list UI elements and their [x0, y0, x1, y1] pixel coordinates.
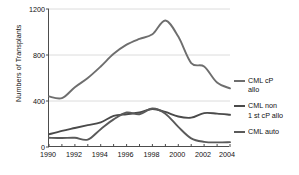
- x-axis-ticks: [49, 144, 230, 147]
- x-tick-2002: 2002: [195, 150, 211, 159]
- x-tick-1990: 1990: [40, 150, 56, 159]
- x-axis-tick-labels: 1990 1992 1994 1996 1998 2000 2002 2004: [48, 150, 229, 164]
- x-tick-2000: 2000: [169, 150, 185, 159]
- plot-svg: [49, 9, 230, 147]
- legend-label-cml-non-1st-cp-allo: CML non 1 st cP allo: [248, 101, 283, 119]
- y-tick-400: 400: [33, 97, 45, 106]
- y-tick-1200: 1200: [29, 5, 45, 14]
- plot-area: [48, 9, 229, 147]
- legend-item-cml-auto: CML auto: [234, 127, 299, 136]
- x-tick-1994: 1994: [92, 150, 108, 159]
- x-tick-1996: 1996: [118, 150, 134, 159]
- legend-label-cml-auto: CML auto: [248, 127, 279, 136]
- legend-swatch-icon: [234, 105, 245, 107]
- chart-container: Numbers of Transplants 1200 800 400 0: [0, 0, 299, 175]
- y-axis-ticks: [46, 9, 49, 147]
- chart-legend: CML cP allo CML non 1 st cP allo CML aut…: [234, 76, 299, 143]
- y-tick-800: 800: [33, 51, 45, 60]
- series-line-cml-non-1st-cp-allo: [49, 109, 230, 134]
- legend-item-cml-cp-allo: CML cP allo: [234, 76, 299, 94]
- x-tick-2004: 2004: [219, 150, 235, 159]
- legend-label-cml-cp-allo: CML cP allo: [248, 76, 273, 94]
- y-axis-tick-labels: 1200 800 400 0: [14, 0, 45, 175]
- x-tick-1998: 1998: [143, 150, 159, 159]
- series-line-cml-cp-allo: [49, 20, 230, 98]
- legend-swatch-icon: [234, 80, 245, 82]
- legend-item-cml-non-1st-cp-allo: CML non 1 st cP allo: [234, 101, 299, 119]
- legend-swatch-icon: [234, 131, 245, 133]
- x-tick-1992: 1992: [66, 150, 82, 159]
